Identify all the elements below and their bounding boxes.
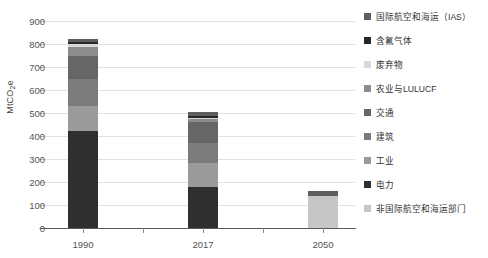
bar-segment[interactable] xyxy=(68,44,98,47)
y-tick-label: 100 xyxy=(5,200,45,211)
legend-item[interactable]: 非国际航空和海运部门 xyxy=(364,204,488,228)
legend-item[interactable]: 建筑 xyxy=(364,132,488,156)
y-tick-label: 400 xyxy=(5,131,45,142)
legend-item-label: 废弃物 xyxy=(376,60,403,70)
bar-segment[interactable] xyxy=(188,116,218,118)
bar-2050[interactable] xyxy=(308,191,338,228)
legend-item[interactable]: 交通 xyxy=(364,108,488,132)
bar-segment[interactable] xyxy=(68,106,98,132)
x-tick-label: 2050 xyxy=(293,239,353,250)
legend-item[interactable]: 含氟气体 xyxy=(364,36,488,60)
bar-segment[interactable] xyxy=(188,112,218,116)
legend-swatch-icon xyxy=(364,157,371,164)
bar-segment[interactable] xyxy=(68,79,98,106)
bar-segment[interactable] xyxy=(188,163,218,187)
x-axis-line xyxy=(40,228,356,229)
bar-segment[interactable] xyxy=(188,119,218,121)
x-tick xyxy=(323,228,324,233)
bar-segment[interactable] xyxy=(68,131,98,228)
bar-segment[interactable] xyxy=(308,191,338,197)
legend-swatch-icon xyxy=(364,85,371,92)
legend-swatch-icon xyxy=(364,37,371,44)
x-tick xyxy=(203,228,204,233)
legend-swatch-icon xyxy=(364,109,371,116)
legend-item[interactable]: 农业与LULUCF xyxy=(364,84,488,108)
legend-item-label: 交通 xyxy=(376,108,394,118)
bar-segment[interactable] xyxy=(188,122,218,143)
legend-item-label: 建筑 xyxy=(376,132,394,142)
legend-item-label: 农业与LULUCF xyxy=(376,84,436,94)
legend-item-label: 国际航空和海运（IAS） xyxy=(376,12,471,22)
x-tick-label: 2017 xyxy=(173,239,233,250)
legend-swatch-icon xyxy=(364,13,371,20)
legend-item[interactable]: 工业 xyxy=(364,156,488,180)
y-tick-label: 0 xyxy=(5,223,45,234)
bar-segment[interactable] xyxy=(188,187,218,228)
y-tick-label: 700 xyxy=(5,62,45,73)
y-tick-label: 600 xyxy=(5,85,45,96)
y-tick-label: 900 xyxy=(5,16,45,27)
plot-area: 0100200300400500600700800900 19902017205… xyxy=(45,21,355,228)
legend-item-label: 非国际航空和海运部门 xyxy=(376,204,466,214)
x-tick-label: 1990 xyxy=(53,239,113,250)
stacked-bar-chart: MtCO2e 0100200300400500600700800900 1990… xyxy=(0,0,488,258)
bar-2017[interactable] xyxy=(188,112,218,228)
legend-item[interactable]: 国际航空和海运（IAS） xyxy=(364,12,488,36)
legend-swatch-icon xyxy=(364,205,371,212)
gridline xyxy=(45,21,355,22)
bar-segment[interactable] xyxy=(68,47,98,55)
y-tick-label: 200 xyxy=(5,177,45,188)
legend-item[interactable]: 废弃物 xyxy=(364,60,488,84)
bar-1990[interactable] xyxy=(68,39,98,228)
legend-item-label: 电力 xyxy=(376,180,394,190)
x-tick-minor xyxy=(263,228,264,233)
chart-legend: 国际航空和海运（IAS）含氟气体废弃物农业与LULUCF交通建筑工业电力非国际航… xyxy=(364,12,488,228)
bar-segment[interactable] xyxy=(68,39,98,42)
bar-segment[interactable] xyxy=(308,196,338,228)
legend-item-label: 含氟气体 xyxy=(376,36,412,46)
legend-swatch-icon xyxy=(364,181,371,188)
legend-swatch-icon xyxy=(364,61,371,68)
bar-segment[interactable] xyxy=(188,118,218,119)
x-tick-minor xyxy=(143,228,144,233)
legend-item-label: 工业 xyxy=(376,156,394,166)
bar-segment[interactable] xyxy=(188,143,218,163)
y-tick-label: 800 xyxy=(5,39,45,50)
legend-item[interactable]: 电力 xyxy=(364,180,488,204)
bar-segment[interactable] xyxy=(68,56,98,79)
bar-segment[interactable] xyxy=(68,42,98,44)
legend-swatch-icon xyxy=(364,133,371,140)
x-tick xyxy=(83,228,84,233)
y-tick-label: 500 xyxy=(5,108,45,119)
y-tick-label: 300 xyxy=(5,154,45,165)
